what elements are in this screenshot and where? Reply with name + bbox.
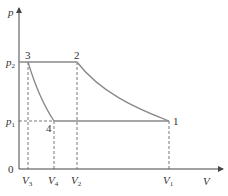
v4-label: V4 [48, 174, 59, 188]
x-axis-label: V [203, 175, 211, 187]
v3-label: V3 [22, 174, 33, 188]
point-2-label: 2 [74, 49, 80, 61]
pv-diagram: p V 0 p2 p1 V3 V4 V2 V1 1 2 3 4 [0, 0, 228, 196]
process-1-2 [77, 62, 169, 121]
v2-label: V2 [71, 174, 82, 188]
y-axis-label: p [7, 6, 14, 18]
origin-label: 0 [8, 163, 14, 175]
point-3-label: 3 [25, 49, 31, 61]
cycle-path [19, 62, 169, 121]
v1-label: V1 [163, 174, 174, 188]
point-1-label: 1 [173, 115, 179, 127]
p1-label: p1 [5, 115, 16, 129]
dashed-guides [19, 62, 169, 169]
point-4-label: 4 [46, 122, 52, 134]
process-3-4 [28, 62, 54, 121]
p2-label: p2 [5, 56, 16, 70]
